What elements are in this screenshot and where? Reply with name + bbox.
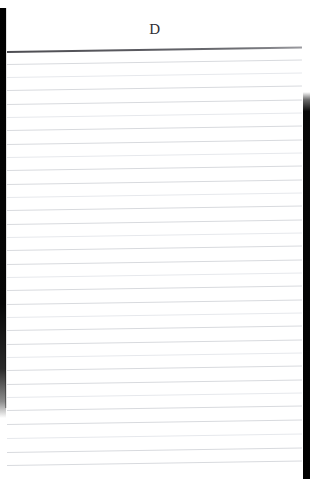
right-scan-edge bbox=[303, 92, 310, 479]
rule-line bbox=[7, 434, 302, 439]
rule-line bbox=[7, 286, 302, 291]
rule-line bbox=[7, 448, 302, 453]
scanned-page: D bbox=[0, 0, 310, 479]
rule-line bbox=[7, 420, 302, 425]
rule-line bbox=[7, 166, 302, 171]
rule-line bbox=[7, 220, 302, 225]
rule-line bbox=[7, 393, 302, 398]
rule-line bbox=[7, 140, 302, 145]
rule-line bbox=[7, 260, 302, 265]
rule-line bbox=[7, 353, 302, 358]
rule-line bbox=[7, 380, 302, 385]
rule-line bbox=[7, 113, 302, 118]
rule-line bbox=[7, 126, 302, 131]
ruled-lines-group bbox=[0, 0, 310, 479]
rule-line bbox=[7, 47, 302, 53]
rule-line bbox=[7, 246, 302, 251]
rule-line bbox=[7, 340, 302, 345]
rule-line bbox=[7, 180, 302, 185]
rule-line bbox=[7, 326, 302, 331]
rule-line bbox=[7, 300, 302, 305]
rule-line bbox=[7, 366, 302, 371]
rule-line bbox=[7, 273, 302, 278]
rule-line bbox=[7, 233, 302, 238]
rule-line bbox=[7, 86, 302, 91]
rule-line bbox=[7, 206, 302, 211]
rule-line bbox=[7, 73, 302, 78]
rule-line bbox=[7, 60, 302, 65]
rule-line bbox=[7, 461, 302, 466]
rule-line bbox=[7, 193, 302, 198]
rule-line bbox=[7, 313, 302, 318]
rule-line bbox=[7, 100, 302, 105]
rule-line bbox=[7, 406, 302, 411]
rule-line bbox=[7, 153, 302, 158]
